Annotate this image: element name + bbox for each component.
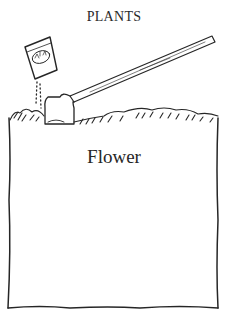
card-label: Flower bbox=[10, 146, 218, 168]
soil-icon bbox=[10, 108, 218, 124]
